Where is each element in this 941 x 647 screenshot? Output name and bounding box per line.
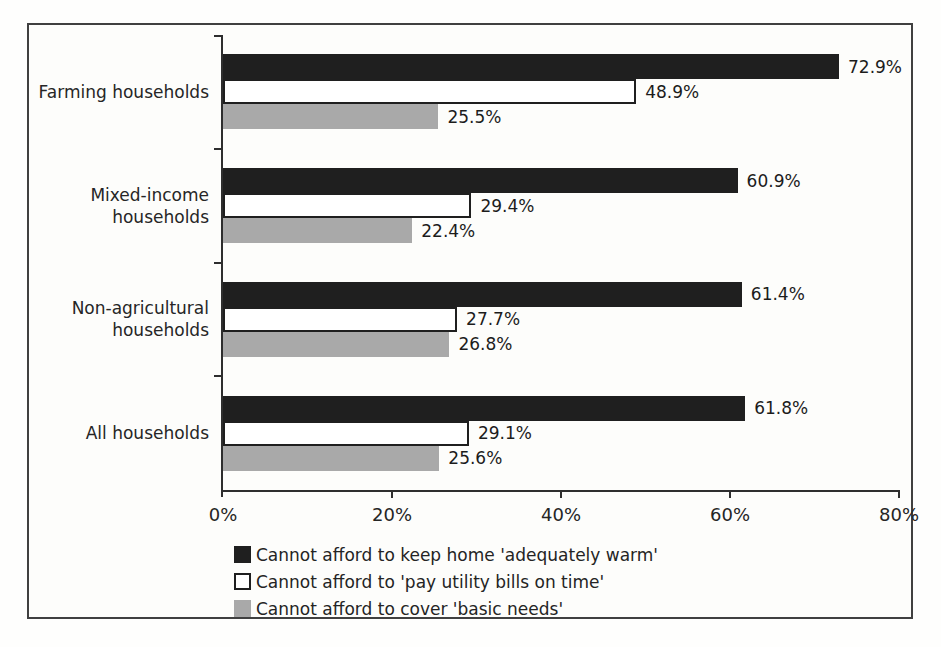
- y-axis-tick: [214, 262, 221, 264]
- bar-value-label: 25.5%: [447, 107, 501, 127]
- bar-series-1: [223, 396, 745, 421]
- bar-row: 72.9%: [223, 54, 899, 79]
- category-label-line: households: [90, 206, 209, 228]
- chart-frame: Farming households72.9%48.9%25.5%Mixed-i…: [27, 23, 913, 619]
- bar-series-1: [223, 54, 839, 79]
- bar-value-label: 61.8%: [754, 398, 808, 418]
- x-axis-tick: [729, 492, 731, 498]
- bar-row: 29.4%: [223, 193, 899, 218]
- legend-swatch-icon: [234, 573, 251, 590]
- bar-series-3: [223, 446, 439, 471]
- legend: Cannot afford to keep home 'adequately w…: [234, 541, 658, 622]
- bar-value-label: 48.9%: [645, 82, 699, 102]
- bar-value-label: 29.1%: [478, 423, 532, 443]
- category-group: Farming households72.9%48.9%25.5%: [223, 35, 899, 149]
- bar-row: 61.8%: [223, 396, 899, 421]
- category-label: Farming households: [39, 81, 209, 103]
- category-label: All households: [86, 422, 209, 444]
- legend-item: Cannot afford to 'pay utility bills on t…: [234, 568, 658, 595]
- category-label-line: All households: [86, 422, 209, 444]
- legend-item: Cannot afford to keep home 'adequately w…: [234, 541, 658, 568]
- category-label: Mixed-incomehouseholds: [90, 184, 209, 228]
- bar-row: 60.9%: [223, 168, 899, 193]
- bar-row: 25.6%: [223, 446, 899, 471]
- plot-area: Farming households72.9%48.9%25.5%Mixed-i…: [223, 35, 899, 490]
- x-axis-tick: [560, 492, 562, 498]
- bar-value-label: 61.4%: [751, 284, 805, 304]
- x-axis-tick-label: 0%: [209, 504, 238, 525]
- category-group: All households61.8%29.1%25.6%: [223, 376, 899, 490]
- category-group: Non-agriculturalhouseholds61.4%27.7%26.8…: [223, 263, 899, 377]
- y-axis-tick: [214, 148, 221, 150]
- y-axis-tick: [214, 375, 221, 377]
- bar-series-2: [223, 193, 471, 218]
- bar-series-1: [223, 168, 738, 193]
- bar-series-2: [223, 79, 636, 104]
- category-label-line: Mixed-income: [90, 184, 209, 206]
- bar-value-label: 22.4%: [421, 221, 475, 241]
- legend-swatch-icon: [234, 600, 251, 617]
- x-axis-tick-label: 60%: [710, 504, 750, 525]
- bar-series-3: [223, 104, 438, 129]
- category-label-line: Non-agricultural: [72, 297, 209, 319]
- x-axis-tick: [898, 492, 900, 498]
- y-axis-tick: [214, 35, 221, 37]
- bar-value-label: 27.7%: [466, 309, 520, 329]
- x-axis-tick-label: 80%: [879, 504, 919, 525]
- bar-row: 29.1%: [223, 421, 899, 446]
- scanned-page: Farming households72.9%48.9%25.5%Mixed-i…: [0, 0, 941, 647]
- legend-item-label: Cannot afford to cover 'basic needs': [256, 599, 563, 619]
- bar-groups: Farming households72.9%48.9%25.5%Mixed-i…: [223, 35, 899, 490]
- bar-row: 26.8%: [223, 332, 899, 357]
- category-label-line: Farming households: [39, 81, 209, 103]
- x-axis-tick-label: 40%: [541, 504, 581, 525]
- bar-row: 27.7%: [223, 307, 899, 332]
- bar-series-2: [223, 421, 469, 446]
- legend-swatch-icon: [234, 546, 251, 563]
- bar-value-label: 60.9%: [747, 171, 801, 191]
- x-axis-tick: [391, 492, 393, 498]
- bar-value-label: 25.6%: [448, 448, 502, 468]
- category-group: Mixed-incomehouseholds60.9%29.4%22.4%: [223, 149, 899, 263]
- legend-item-label: Cannot afford to keep home 'adequately w…: [256, 545, 658, 565]
- legend-item-label: Cannot afford to 'pay utility bills on t…: [256, 572, 604, 592]
- category-label-line: households: [72, 319, 209, 341]
- category-label: Non-agriculturalhouseholds: [72, 297, 209, 341]
- bar-series-3: [223, 332, 449, 357]
- bar-value-label: 26.8%: [458, 334, 512, 354]
- bar-row: 22.4%: [223, 218, 899, 243]
- bar-value-label: 72.9%: [848, 57, 902, 77]
- bar-series-1: [223, 282, 742, 307]
- bar-series-2: [223, 307, 457, 332]
- bar-row: 25.5%: [223, 104, 899, 129]
- bar-value-label: 29.4%: [480, 196, 534, 216]
- bar-series-3: [223, 218, 412, 243]
- bar-row: 48.9%: [223, 79, 899, 104]
- x-axis-tick-label: 20%: [372, 504, 412, 525]
- legend-item: Cannot afford to cover 'basic needs': [234, 595, 658, 622]
- bar-row: 61.4%: [223, 282, 899, 307]
